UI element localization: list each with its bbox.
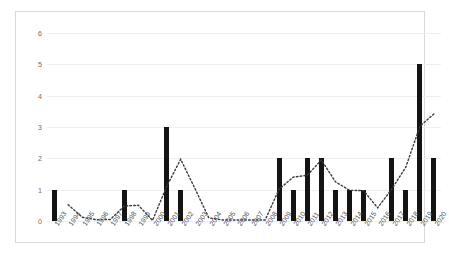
gridline-6 — [47, 33, 441, 34]
gridline-4 — [47, 96, 441, 97]
y-tick-label-6: 6 — [38, 30, 42, 37]
bar-2020 — [431, 158, 436, 221]
y-tick-label-5: 5 — [38, 61, 42, 68]
chart-container: 6543210 19931994199519961997199819992000… — [0, 0, 449, 256]
y-tick-label-2: 2 — [38, 155, 42, 162]
plot-area: 6543210 — [47, 33, 441, 221]
bar-1993 — [52, 190, 57, 221]
bar-2001 — [164, 127, 169, 221]
bar-2014 — [347, 190, 352, 221]
gridline-1 — [47, 190, 441, 191]
bar-2019 — [417, 64, 422, 221]
y-tick-label-3: 3 — [38, 124, 42, 131]
y-tick-label-1: 1 — [38, 186, 42, 193]
bar-2009 — [277, 158, 282, 221]
y-tick-label-0: 0 — [38, 218, 42, 225]
gridline-2 — [47, 158, 441, 159]
bar-2011 — [305, 158, 310, 221]
bar-2012 — [319, 158, 324, 221]
gridline-5 — [47, 64, 441, 65]
gridline-3 — [47, 127, 441, 128]
x-axis-tick-labels: 1993199419951996199719981999200020012002… — [47, 223, 441, 256]
y-tick-label-4: 4 — [38, 92, 42, 99]
chart-plot-frame: 6543210 19931994199519961997199819992000… — [15, 11, 425, 243]
